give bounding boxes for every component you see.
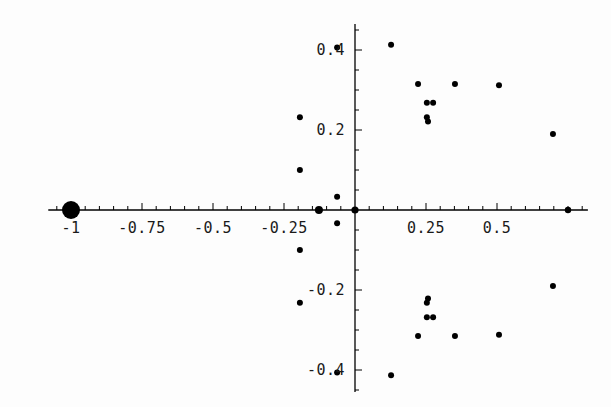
data-point bbox=[496, 332, 502, 338]
data-point bbox=[315, 206, 323, 214]
y-axis-tick-label: -0.4 bbox=[307, 361, 345, 379]
data-point bbox=[62, 201, 80, 219]
data-point bbox=[334, 220, 340, 226]
data-point bbox=[388, 372, 394, 378]
data-point bbox=[351, 206, 358, 213]
x-axis-tick-label: 0.5 bbox=[483, 219, 512, 237]
data-point bbox=[496, 82, 502, 88]
x-axis-tick-label: -1 bbox=[61, 219, 80, 237]
y-axis-tick-label: -0.2 bbox=[307, 281, 345, 299]
data-point bbox=[565, 207, 571, 213]
data-point bbox=[550, 131, 556, 137]
data-point bbox=[452, 81, 458, 87]
data-point bbox=[425, 119, 431, 125]
data-point bbox=[297, 247, 303, 253]
data-point bbox=[430, 100, 436, 106]
data-point bbox=[424, 100, 430, 106]
complex-plane-scatter-plot: -1-0.75-0.5-0.250.250.50.40.2-0.2-0.4 bbox=[0, 0, 611, 407]
data-point bbox=[415, 81, 421, 87]
plot-canvas bbox=[0, 0, 611, 407]
data-point bbox=[297, 167, 303, 173]
data-point bbox=[297, 114, 303, 120]
x-axis-tick-label: 0.25 bbox=[407, 219, 445, 237]
data-point bbox=[415, 333, 421, 339]
x-axis-tick-label: -0.25 bbox=[260, 219, 308, 237]
x-axis-tick-label: -0.5 bbox=[194, 219, 232, 237]
x-axis-tick-label: -0.75 bbox=[118, 219, 166, 237]
data-point bbox=[424, 314, 430, 320]
y-axis-tick-label: 0.2 bbox=[316, 121, 345, 139]
data-point bbox=[550, 283, 556, 289]
data-point bbox=[425, 295, 431, 301]
data-point bbox=[452, 333, 458, 339]
data-point bbox=[430, 314, 436, 320]
y-axis-tick-label: 0.4 bbox=[316, 41, 345, 59]
data-point bbox=[388, 42, 394, 48]
data-point bbox=[297, 300, 303, 306]
data-point bbox=[334, 194, 340, 200]
